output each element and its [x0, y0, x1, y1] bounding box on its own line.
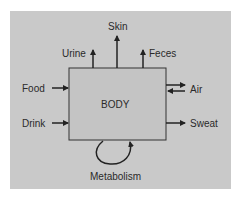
label-metabolism: Metabolism	[90, 171, 141, 182]
label-urine: Urine	[62, 48, 86, 59]
label-air: Air	[190, 84, 202, 95]
label-drink: Drink	[22, 118, 45, 129]
label-food: Food	[22, 83, 45, 94]
label-skin: Skin	[108, 21, 127, 32]
metabolism-loop-arrow	[96, 141, 130, 164]
label-feces: Feces	[149, 48, 176, 59]
label-sweat: Sweat	[190, 118, 218, 129]
label-body: BODY	[101, 99, 129, 110]
